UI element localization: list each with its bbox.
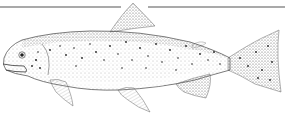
eye bbox=[19, 52, 25, 58]
illustration-canvas bbox=[0, 0, 285, 116]
trout-illustration bbox=[0, 0, 285, 116]
pelvic-fin bbox=[118, 87, 150, 112]
tail-fin bbox=[228, 30, 281, 92]
